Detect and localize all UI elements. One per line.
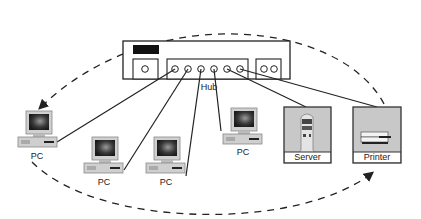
pc-icon xyxy=(18,111,57,147)
pc-label: PC xyxy=(24,151,50,161)
diagram-canvas xyxy=(0,0,421,219)
flow-arc-bottom xyxy=(32,162,372,214)
pc-icon xyxy=(223,108,262,144)
printer-label: Printer xyxy=(354,152,400,163)
server-label: Server xyxy=(285,152,330,163)
pc-label: PC xyxy=(230,147,256,157)
network-diagram: Hub PC PC PC PC Server Printer xyxy=(0,0,421,219)
pc-icon xyxy=(84,137,123,173)
hub-label: Hub xyxy=(196,82,222,92)
hub-device xyxy=(123,41,290,79)
pc-label: PC xyxy=(91,177,117,187)
pc-label: PC xyxy=(153,177,179,187)
pc-icon xyxy=(146,137,185,173)
